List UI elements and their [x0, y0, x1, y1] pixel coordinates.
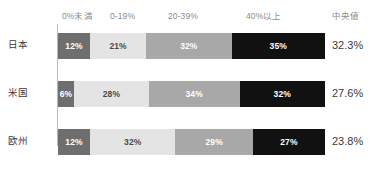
bar-segment-0-under: 12% — [58, 33, 90, 59]
bar-segment-label: 32% — [274, 90, 291, 99]
bar-segment-label: 21% — [109, 42, 126, 51]
bar-segment-label: 28% — [103, 90, 120, 99]
bar-segment-label: 12% — [65, 138, 82, 147]
bar-segment-0-under: 12% — [58, 129, 90, 155]
bar-segment-label: 12% — [65, 42, 82, 51]
column-header-median: 中央値 — [332, 10, 359, 23]
table-row: 12% 21% 32% 35% — [58, 33, 325, 59]
legend-item-0-under: 0%未満 — [62, 10, 93, 23]
bar-segment-40-over: 35% — [232, 33, 325, 59]
legend-item-0-19: 0-19% — [110, 10, 135, 23]
bar-segment-0-under: 6% — [58, 81, 74, 107]
chart-legend: 0%未満 0-19% 20-39% 40%以上 中央値 — [0, 10, 390, 24]
bar-segment-label: 29% — [206, 138, 223, 147]
row-label-europe: 欧州 — [8, 135, 52, 147]
bar-segment-40-over: 32% — [240, 81, 325, 107]
bar-segment-20-39: 32% — [146, 33, 231, 59]
bar-segment-0-19: 21% — [90, 33, 146, 59]
median-value-europe: 23.8% — [332, 135, 388, 148]
bar-segment-20-39: 29% — [175, 129, 252, 155]
median-value-japan: 32.3% — [332, 39, 388, 52]
median-value-usa: 27.6% — [332, 87, 388, 100]
stacked-bar-chart: 0%未満 0-19% 20-39% 40%以上 中央値 日本 米国 欧州 12%… — [0, 0, 390, 178]
bar-segment-label: 32% — [180, 42, 197, 51]
bar-segment-20-39: 34% — [149, 81, 240, 107]
bar-segment-0-19: 32% — [90, 129, 175, 155]
plot-area: 12% 21% 32% 35% 6% 28% 34% 32% — [58, 24, 325, 146]
bar-segment-0-19: 28% — [74, 81, 149, 107]
bar-segment-label: 35% — [270, 42, 287, 51]
table-row: 6% 28% 34% 32% — [58, 81, 325, 107]
bar-segment-label: 6% — [60, 90, 73, 99]
table-row: 12% 32% 29% 27% — [58, 129, 325, 155]
row-label-japan: 日本 — [8, 39, 52, 51]
legend-item-20-39: 20-39% — [168, 10, 198, 23]
bar-segment-label: 32% — [124, 138, 141, 147]
legend-item-40-over: 40%以上 — [246, 10, 282, 23]
bar-segment-40-over: 27% — [253, 129, 325, 155]
bar-segment-label: 27% — [280, 138, 297, 147]
row-label-usa: 米国 — [8, 87, 52, 99]
bar-segment-label: 34% — [185, 90, 202, 99]
